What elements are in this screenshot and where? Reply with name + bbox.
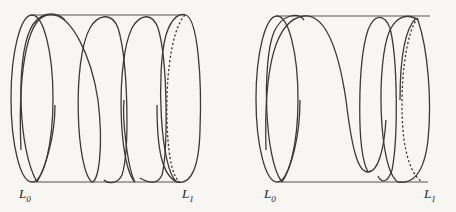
helix-diagram-left bbox=[0, 0, 228, 212]
helix-loop-3-inner bbox=[124, 100, 135, 182]
helix-diagram-right bbox=[228, 0, 456, 212]
helix-loop-1 bbox=[20, 15, 100, 182]
label-l1: L1 bbox=[182, 186, 194, 204]
label-l0: L0 bbox=[264, 186, 276, 204]
label-l0: L0 bbox=[19, 186, 31, 204]
helix-loop-2 bbox=[78, 17, 127, 183]
helix-segment bbox=[21, 14, 65, 182]
figure-left-uniform-helix: L0 L1 bbox=[0, 0, 228, 212]
helix-stretched-turn bbox=[266, 16, 386, 172]
helix-hidden-back-strand bbox=[167, 15, 185, 182]
helix-final-turn bbox=[161, 14, 201, 182]
helix-loop-2 bbox=[360, 17, 397, 180]
helix-final-front bbox=[157, 105, 177, 182]
figure-right-stretched-helix: L0 L1 bbox=[228, 0, 456, 212]
label-l1: L1 bbox=[424, 186, 436, 204]
